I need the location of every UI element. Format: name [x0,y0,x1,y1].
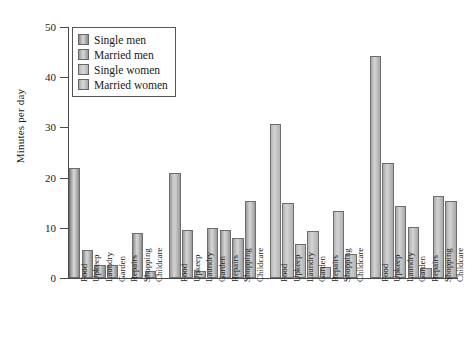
y-tick-10 [60,228,68,229]
y-tick-label-40: 40 [36,77,56,78]
x-label-0-garden: Garden [117,256,127,282]
y-tick-50 [60,27,68,28]
x-label-3-shopping: Shopping [443,248,453,282]
y-tick-label-10: 10 [36,228,56,229]
x-label-2-upkeep: Upkeep [292,255,302,282]
x-label-2-shopping: Shopping [342,248,352,282]
x-label-1-upkeep: Upkeep [192,255,202,282]
x-label-3-laundry: Laundry [405,252,415,282]
x-label-2-garden: Garden [317,256,327,282]
x-label-0-laundry: Laundry [104,252,114,282]
x-label-1-shopping: Shopping [242,248,252,282]
x-label-3-upkeep: Upkeep [392,255,402,282]
x-label-1-food: Food [179,264,189,282]
x-label-2-childcare: Childcare [355,248,365,282]
y-tick-30 [60,127,68,128]
x-label-0-shopping: Shopping [142,248,152,282]
x-label-1-repairs: Repairs [230,255,240,282]
x-label-0-upkeep: Upkeep [91,255,101,282]
x-label-3-food: Food [380,264,390,282]
bar-married-women-food [370,56,381,278]
y-tick-label-0: 0 [36,278,56,279]
y-tick-20 [60,178,68,179]
y-tick-label-30: 30 [36,127,56,128]
x-label-0-food: Food [79,264,89,282]
x-label-2-repairs: Repairs [330,255,340,282]
x-label-2-food: Food [279,264,289,282]
x-label-0-repairs: Repairs [129,255,139,282]
x-label-2-laundry: Laundry [305,252,315,282]
x-label-3-repairs: Repairs [430,255,440,282]
y-tick-40 [60,77,68,78]
x-label-3-garden: Garden [417,256,427,282]
y-axis-title: Minutes per day [14,66,26,186]
x-label-1-childcare: Childcare [255,248,265,282]
y-tick-0 [60,278,68,279]
bar-single-men-food [69,168,80,278]
x-label-3-childcare: Childcare [455,248,465,282]
x-label-1-laundry: Laundry [204,252,214,282]
x-label-0-childcare: Childcare [154,248,164,282]
y-tick-label-50: 50 [36,27,56,28]
bar-chart: Minutes per day 01020304050 Single menMa… [0,0,465,353]
bar-married-men-food [169,173,180,278]
bar-single-women-food [270,124,281,278]
x-label-1-garden: Garden [217,256,227,282]
plot-area [69,27,458,278]
y-tick-label-20: 20 [36,178,56,179]
